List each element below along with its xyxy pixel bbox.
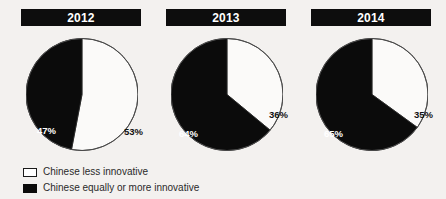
pie-chart-2014: 65% 35% [316, 38, 428, 151]
pie-chart-2012: 47% 53% [26, 38, 138, 151]
chart-canvas: 2012 47% 53% 2013 64% 36% [0, 0, 446, 199]
pie-panel-2014: 2014 65% 35% [300, 0, 441, 160]
pie-label-light-2013: 36% [269, 110, 288, 120]
legend-label-less-innovative: Chinese less innovative [43, 167, 148, 177]
pie-label-light-2012: 53% [124, 127, 143, 137]
year-header-2013: 2013 [166, 9, 286, 26]
legend-swatch-black-square [23, 184, 37, 193]
year-header-2014: 2014 [311, 9, 431, 26]
legend: Chinese less innovative Chinese equally … [23, 165, 323, 197]
pie-label-dark-2014: 65% [324, 129, 343, 139]
pie-panel-2012: 2012 47% 53% [10, 0, 151, 160]
pie-label-dark-2013: 64% [179, 129, 198, 139]
legend-swatch-white-square [23, 168, 37, 177]
legend-item-equally-or-more-innovative: Chinese equally or more innovative [23, 181, 323, 195]
pie-panel-2013: 2013 64% 36% [155, 0, 296, 160]
pie-chart-2013: 64% 36% [171, 38, 283, 151]
pie-label-dark-2012: 47% [37, 126, 56, 136]
year-header-2012: 2012 [21, 9, 141, 26]
legend-item-less-innovative: Chinese less innovative [23, 165, 323, 179]
pie-label-light-2014: 35% [414, 110, 433, 120]
legend-label-equally-or-more-innovative: Chinese equally or more innovative [43, 183, 199, 193]
